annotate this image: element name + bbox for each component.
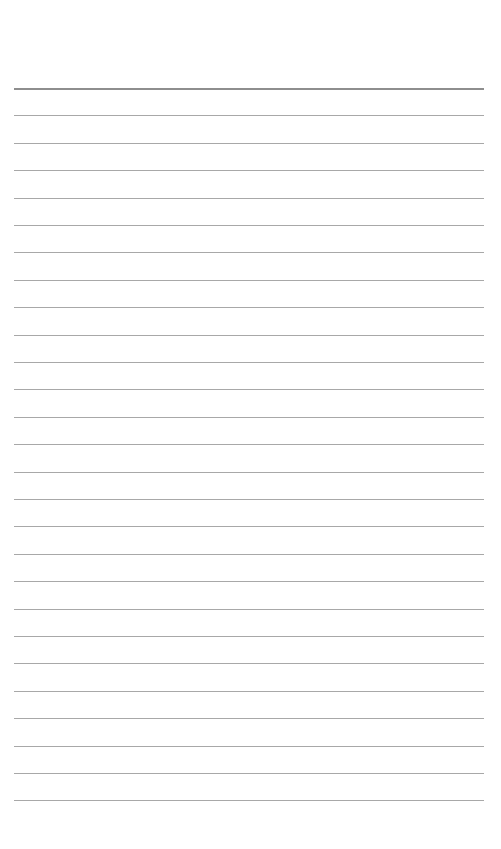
ruled-line — [14, 143, 484, 144]
ruled-line — [14, 718, 484, 719]
ruled-line — [14, 170, 484, 171]
ruled-line — [14, 499, 484, 500]
ruled-line — [14, 307, 484, 308]
ruled-line — [14, 472, 484, 473]
ruled-line — [14, 773, 484, 774]
lined-page — [0, 0, 501, 849]
ruled-line — [14, 554, 484, 555]
ruled-line — [14, 115, 484, 116]
ruled-line — [14, 417, 484, 418]
ruled-line — [14, 362, 484, 363]
ruled-line — [14, 800, 484, 801]
ruled-line — [14, 252, 484, 253]
ruled-line — [14, 225, 484, 226]
ruled-line — [14, 636, 484, 637]
ruled-line — [14, 198, 484, 199]
ruled-line — [14, 746, 484, 747]
ruled-line — [14, 526, 484, 527]
ruled-line — [14, 691, 484, 692]
ruled-line — [14, 663, 484, 664]
ruled-line — [14, 389, 484, 390]
ruled-line — [14, 581, 484, 582]
header-rule — [14, 88, 484, 90]
ruled-line — [14, 280, 484, 281]
ruled-line — [14, 609, 484, 610]
ruled-line — [14, 444, 484, 445]
ruled-line — [14, 335, 484, 336]
